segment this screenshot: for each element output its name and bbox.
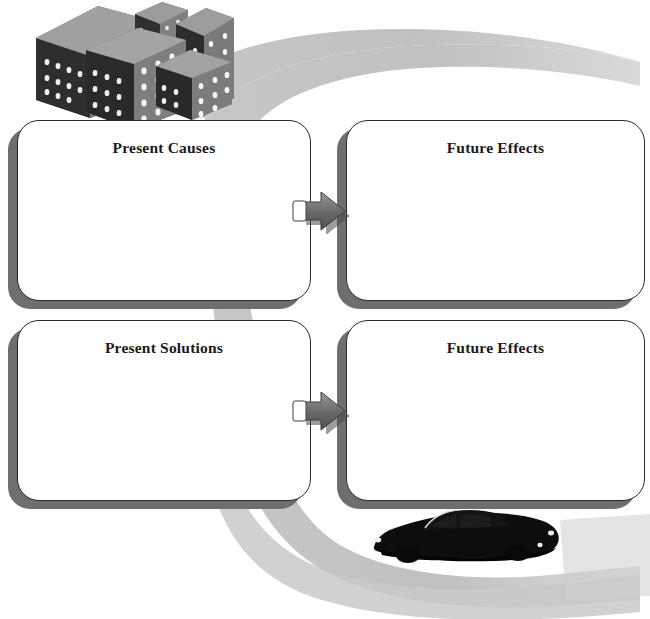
box-present-solutions[interactable]: Present Solutions xyxy=(17,320,311,501)
box-future-effects-1[interactable]: Future Effects xyxy=(346,120,645,301)
arrow-right-icon-solutions-to-effects[interactable] xyxy=(291,388,353,434)
background-art xyxy=(0,0,650,619)
box-label-future-effects-2: Future Effects xyxy=(347,339,644,357)
box-label-present-solutions: Present Solutions xyxy=(18,339,310,357)
box-present-causes[interactable]: Present Causes xyxy=(17,120,311,301)
box-future-effects-2[interactable]: Future Effects xyxy=(346,320,645,501)
box-label-future-effects-1: Future Effects xyxy=(347,139,644,157)
city-buildings-icon xyxy=(36,2,234,130)
arrow-right-icon-causes-to-effects[interactable] xyxy=(291,188,353,234)
organizer-canvas: Present Causes Future Effects Present So… xyxy=(0,0,650,619)
box-label-present-causes: Present Causes xyxy=(18,139,310,157)
black-car-icon xyxy=(0,0,650,619)
